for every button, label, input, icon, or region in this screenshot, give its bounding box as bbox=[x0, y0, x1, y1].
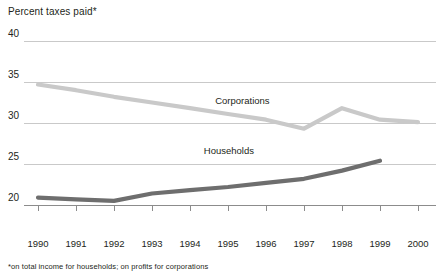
x-tick-label-1992: 1992 bbox=[94, 238, 134, 249]
x-tick-label-1990: 1990 bbox=[18, 238, 58, 249]
chart-container: Percent taxes paid* 4035302520 199019911… bbox=[0, 0, 444, 280]
chart-footnote: *on total income for households; on prof… bbox=[8, 262, 208, 271]
y-tick-label-40: 40 bbox=[8, 28, 34, 39]
x-tick-label-1993: 1993 bbox=[132, 238, 172, 249]
x-tick-label-2000: 2000 bbox=[398, 238, 438, 249]
x-tick-label-1991: 1991 bbox=[56, 238, 96, 249]
x-tick-label-1995: 1995 bbox=[208, 238, 248, 249]
x-tick-label-1999: 1999 bbox=[360, 238, 400, 249]
series-line-corporations bbox=[38, 85, 418, 129]
x-tick-label-1997: 1997 bbox=[284, 238, 324, 249]
x-tick-label-1994: 1994 bbox=[170, 238, 210, 249]
y-tick-label-20: 20 bbox=[8, 192, 34, 203]
y-tick-label-25: 25 bbox=[8, 151, 34, 162]
y-tick-label-35: 35 bbox=[8, 69, 34, 80]
series-label-households: Households bbox=[204, 145, 254, 156]
x-tick-label-1998: 1998 bbox=[322, 238, 362, 249]
x-tick-label-1996: 1996 bbox=[246, 238, 286, 249]
series-label-corporations: Corporations bbox=[215, 95, 269, 106]
series-line-households bbox=[38, 161, 380, 201]
y-tick-label-30: 30 bbox=[8, 110, 34, 121]
